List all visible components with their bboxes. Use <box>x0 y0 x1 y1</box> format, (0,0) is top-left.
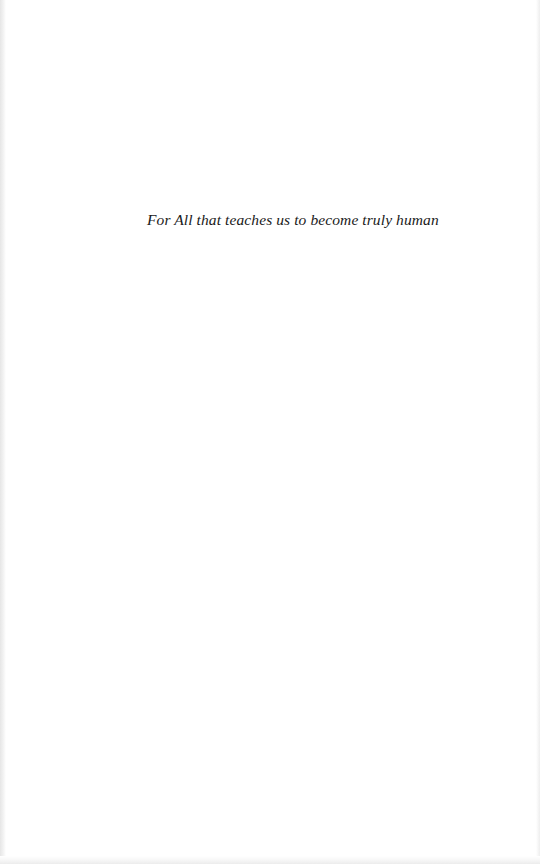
page-edge-left <box>0 0 6 864</box>
page-edge-bottom <box>0 856 540 864</box>
page-edge-right <box>536 0 540 864</box>
dedication-text: For All that teaches us to become truly … <box>147 210 417 230</box>
book-page: For All that teaches us to become truly … <box>0 0 540 864</box>
